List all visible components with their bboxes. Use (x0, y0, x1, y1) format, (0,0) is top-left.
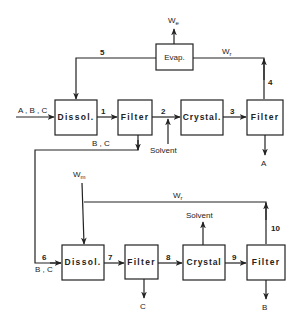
stream-9-number: 9 (232, 253, 237, 262)
stream-3-number: 3 (230, 107, 235, 116)
wr-bottom-label: Wr (173, 191, 183, 201)
evaporator-unit: Evap. (156, 44, 193, 70)
wm-stream-arrow (82, 183, 84, 244)
bc-transfer-line (35, 135, 138, 263)
top-filter2-unit: Filter (247, 100, 283, 135)
product-a-label: A (261, 159, 267, 168)
wr-top-line (193, 58, 264, 99)
bottom-filter2-label: Filter (252, 257, 281, 267)
evaporator-label: Evap. (164, 53, 184, 62)
stream-1-number: 1 (101, 107, 106, 116)
bc-top-label: B , C (92, 139, 110, 148)
bottom-dissolver-unit: Dissol. (62, 245, 104, 280)
bottom-filter1-unit: Filter (125, 245, 158, 279)
top-crystallizer-label: Crystal. (183, 112, 221, 122)
top-dissolver-label: Dissol. (58, 112, 95, 122)
stream-8-number: 8 (166, 253, 171, 262)
wr-top-label: Wr (222, 47, 232, 57)
top-filter2-label: Filter (251, 112, 280, 122)
stream-5-line (76, 58, 156, 99)
top-crystallizer-unit: Crystal. (181, 100, 223, 135)
stream-4-number: 4 (268, 78, 273, 87)
top-filter1-unit: Filter (118, 100, 152, 135)
we-label: We (168, 16, 180, 26)
bottom-filter2-unit: Filter (247, 245, 285, 280)
bc-bottom-label: B , C (35, 265, 53, 274)
feed-label: A , B , C (18, 106, 48, 115)
top-dissolver-unit: Dissol. (55, 100, 97, 135)
solvent-out-label: Solvent (186, 211, 213, 220)
wr-bottom-line (84, 202, 266, 244)
top-filter1-label: Filter (121, 112, 150, 122)
process-flow-diagram: Evap. We 5 Wr 4 A , B , C Dissol. 1 Filt… (0, 0, 301, 325)
product-c-label: C (140, 302, 146, 311)
bottom-crystallizer-label: Crystal (186, 257, 221, 267)
product-b-label: B (262, 303, 267, 312)
wm-label: Wm (73, 170, 86, 180)
stream-7-number: 7 (108, 253, 113, 262)
stream-5-number: 5 (100, 48, 105, 57)
stream-6-number: 6 (42, 253, 47, 262)
bottom-filter1-label: Filter (127, 257, 156, 267)
solvent-in-label: Solvent (150, 146, 177, 155)
bottom-dissolver-label: Dissol. (65, 257, 102, 267)
bottom-crystallizer-unit: Crystal (183, 245, 225, 280)
stream-2-number: 2 (161, 107, 166, 116)
stream-10-number: 10 (271, 224, 280, 233)
